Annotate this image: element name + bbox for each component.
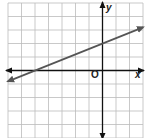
origin-label: O (91, 69, 99, 80)
x-axis-label: x (134, 69, 141, 80)
axes (6, 2, 144, 138)
coordinate-graph: y x O (0, 0, 147, 138)
y-axis-label: y (105, 2, 112, 13)
